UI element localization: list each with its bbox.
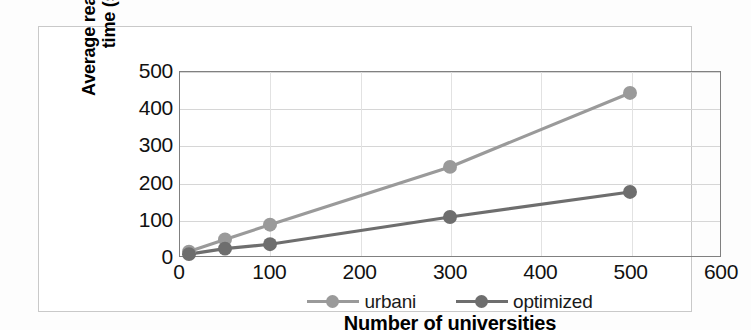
data-point-optimized [182, 247, 196, 261]
x-tick-label: 600 [686, 261, 751, 282]
legend-label: urbani [364, 292, 416, 311]
series-line-urbani [189, 93, 630, 252]
legend-item-optimized[interactable]: optimized [456, 292, 593, 311]
x-tick-label: 200 [325, 261, 395, 282]
data-point-optimized [218, 242, 232, 256]
x-tick-label: 0 [144, 261, 214, 282]
data-point-urbani [263, 218, 277, 232]
x-axis-tick-labels: 0100200300400500600 [179, 261, 721, 289]
legend-marker-icon [456, 294, 508, 308]
data-point-optimized [623, 185, 637, 199]
x-tick-label: 400 [505, 261, 575, 282]
plot-area [179, 71, 721, 257]
chart-frame: Average reasoning time (s) 5004003002001… [38, 26, 692, 312]
data-point-urbani [623, 86, 637, 100]
x-axis-title: Number of universities [179, 312, 721, 330]
data-point-optimized [263, 237, 277, 251]
chart-legend: urbanioptimized [179, 289, 721, 313]
legend-marker-icon [307, 294, 359, 308]
y-tick-label: 100 [121, 209, 173, 230]
y-tick-label: 500 [121, 60, 173, 81]
x-tick-label: 100 [234, 261, 304, 282]
y-tick-label: 400 [121, 97, 173, 118]
legend-item-urbani[interactable]: urbani [307, 292, 416, 311]
y-axis-title-line1: Average reasoning [79, 0, 99, 109]
y-tick-label: 200 [121, 172, 173, 193]
chart-figure: Average reasoning time (s) 5004003002001… [0, 0, 751, 330]
data-point-urbani [443, 160, 457, 174]
data-point-optimized [443, 210, 457, 224]
y-axis-title: Average reasoning time (s) [79, 0, 115, 109]
series-line-optimized [189, 192, 630, 254]
x-tick-label: 300 [415, 261, 485, 282]
legend-label: optimized [513, 292, 593, 311]
y-axis-tick-labels: 5004003002001000 [117, 71, 173, 257]
y-tick-label: 300 [121, 134, 173, 155]
x-tick-label: 500 [596, 261, 666, 282]
series-layer [180, 72, 720, 256]
